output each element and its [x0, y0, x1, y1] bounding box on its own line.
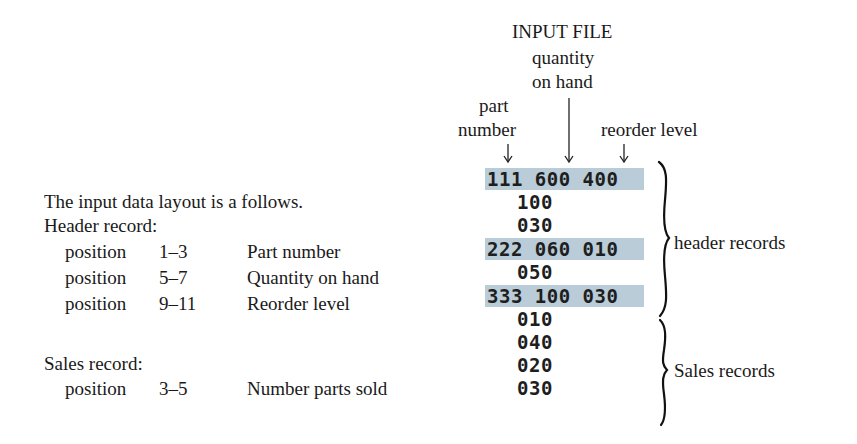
diagram-graphics [0, 0, 857, 444]
brace-header-icon [659, 162, 669, 316]
arrow-down-icon [565, 98, 573, 162]
arrow-down-icon [504, 144, 512, 162]
brace-sales-icon [660, 320, 667, 425]
arrow-down-icon [620, 144, 628, 162]
